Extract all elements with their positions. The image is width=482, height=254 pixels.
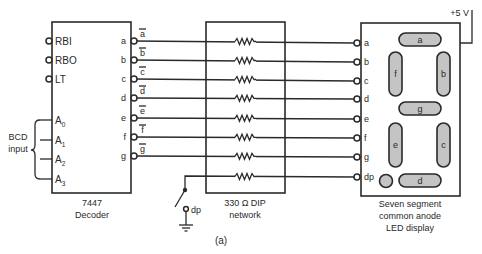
display-pin-label-e: e xyxy=(364,114,369,124)
bubble-b xyxy=(131,57,137,63)
pin-lt-bubble xyxy=(46,76,52,82)
segment-e: e xyxy=(389,123,402,167)
svg-text:g: g xyxy=(140,144,145,154)
ground-icon xyxy=(179,225,193,231)
display-pin-c xyxy=(354,78,360,84)
segment-a: a xyxy=(399,33,441,46)
output-label-d: d xyxy=(121,93,126,103)
decoder-body xyxy=(52,22,131,193)
resistor-group xyxy=(235,39,256,180)
display-pin-d xyxy=(354,96,360,102)
svg-text:f: f xyxy=(141,125,144,135)
bubble-c xyxy=(131,76,137,82)
output-label-g: g xyxy=(121,151,126,161)
segment-dp xyxy=(380,175,393,188)
bcd-brace xyxy=(31,120,40,179)
signal-e-bar: e xyxy=(139,106,146,116)
segment-g: g xyxy=(399,102,441,115)
switch-blade xyxy=(175,190,185,207)
dp-switch: dp xyxy=(175,188,201,231)
output-label-e: e xyxy=(121,113,126,123)
decoder-7447: RBI RBO LT A0 A1 A2 A3 BCD input a b c d xyxy=(8,22,131,220)
bubble-d xyxy=(131,95,137,101)
display-pin-f xyxy=(354,135,360,141)
signal-a-bar: a xyxy=(139,29,146,39)
output-label-b: b xyxy=(121,55,126,65)
bubble-g xyxy=(131,153,137,159)
signal-b-bar: b xyxy=(139,48,146,58)
decoder-subtitle: Decoder xyxy=(75,210,109,220)
svg-text:e: e xyxy=(140,106,145,116)
svg-text:a: a xyxy=(417,35,422,45)
svg-text:d: d xyxy=(417,176,422,186)
figure-label: (a) xyxy=(215,235,227,246)
dip-title: 330 Ω DIP xyxy=(224,198,266,208)
signal-c-bar: c xyxy=(139,67,146,77)
decoder-name: 7447 xyxy=(82,198,102,208)
display-pin-label-a: a xyxy=(364,38,369,48)
svg-text:a: a xyxy=(140,29,145,39)
display-pin-dp xyxy=(354,174,360,180)
dip-resistor-network: 330 Ω DIP network xyxy=(206,22,285,220)
wire-dp xyxy=(185,176,354,188)
input-label: input xyxy=(8,144,28,154)
svg-text:d: d xyxy=(140,86,145,96)
bcd-label: BCD xyxy=(8,132,28,142)
bubble-f xyxy=(131,134,137,140)
decoder-output-bubbles xyxy=(131,38,137,159)
svg-text:c: c xyxy=(140,67,145,77)
dip-body xyxy=(206,22,285,193)
display-pin-label-d: d xyxy=(364,94,369,104)
output-label-c: c xyxy=(122,74,127,84)
supply-label: +5 V xyxy=(450,8,469,18)
inverted-signal-labels: a b c d e f g xyxy=(139,29,146,154)
display-caption-line3: LED display xyxy=(386,223,435,233)
segment-f: f xyxy=(389,52,402,96)
signal-g-bar: g xyxy=(139,144,146,154)
signal-d-bar: d xyxy=(139,86,146,96)
display-pin-a xyxy=(354,40,360,46)
pin-rbi-bubble xyxy=(46,38,52,44)
svg-text:g: g xyxy=(417,104,422,114)
segment-d: d xyxy=(399,174,441,187)
svg-text:c: c xyxy=(441,140,446,150)
display-pin-label-c: c xyxy=(364,76,369,86)
display-pin-e xyxy=(354,116,360,122)
signal-f-bar: f xyxy=(139,125,146,135)
segment-b: b xyxy=(437,52,450,96)
display-pin-label-g: g xyxy=(364,152,369,162)
svg-text:b: b xyxy=(140,48,145,58)
svg-text:b: b xyxy=(441,69,446,79)
switch-terminal xyxy=(184,207,189,212)
display-pin-label-b: b xyxy=(364,57,369,67)
display-caption-line2: common anode xyxy=(379,211,441,221)
bubble-a xyxy=(131,38,137,44)
switch-label: dp xyxy=(191,205,201,215)
segment-c: c xyxy=(437,123,450,167)
circuit-diagram: RBI RBO LT A0 A1 A2 A3 BCD input a b c d xyxy=(0,0,482,254)
display-pin-b xyxy=(354,59,360,65)
display-caption-line1: Seven segment xyxy=(379,199,442,209)
pin-rbo-bubble xyxy=(46,57,52,63)
display-pin-label-dp: dp xyxy=(364,172,374,182)
dip-subtitle: network xyxy=(229,210,261,220)
pin-label-rbi: RBI xyxy=(55,36,72,47)
pin-label-lt: LT xyxy=(55,74,66,85)
pin-label-rbo: RBO xyxy=(55,55,77,66)
display-pin-g xyxy=(354,154,360,160)
bubble-e xyxy=(131,115,137,121)
output-label-a: a xyxy=(121,36,126,46)
svg-text:e: e xyxy=(393,140,398,150)
seven-segment-display: +5 V a b c d e f g dp a xyxy=(354,8,472,233)
